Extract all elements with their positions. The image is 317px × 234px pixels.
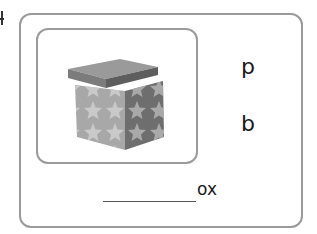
letter-choice-p[interactable]: p — [241, 56, 255, 78]
answer-blank-line[interactable] — [103, 201, 196, 202]
star-gift-box-icon — [60, 55, 170, 153]
cropped-exercise-number-mark — [0, 9, 4, 25]
letter-choice-b[interactable]: b — [241, 113, 255, 135]
word-ending: ox — [197, 181, 217, 198]
